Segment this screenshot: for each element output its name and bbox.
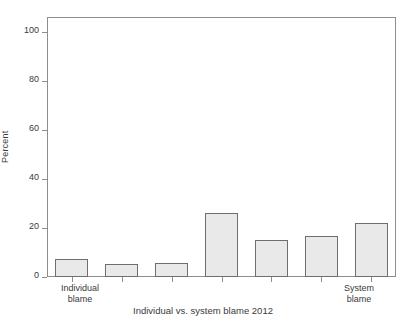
y-tick-40: 40 <box>0 179 47 180</box>
x-tick-label-system-blame: System blame <box>323 283 395 305</box>
y-tick-80: 80 <box>0 81 47 82</box>
bar <box>105 264 138 277</box>
x-tick-mark <box>222 277 223 282</box>
x-tick-mark <box>122 277 123 282</box>
y-tick-label-40: 40 <box>29 172 39 182</box>
y-tick-20: 20 <box>0 228 47 229</box>
bar <box>205 213 238 277</box>
x-tick-label-line1: Individual <box>44 283 116 294</box>
bar-chart-figure: Percent 100 80 60 40 20 0 Individual bla… <box>0 0 406 325</box>
x-tick-mark <box>271 277 272 282</box>
y-tick-label-20: 20 <box>29 221 39 231</box>
bar <box>355 223 388 277</box>
x-tick-mark <box>72 277 73 282</box>
x-tick-label-line2: blame <box>323 294 395 305</box>
x-tick-label-line2: blame <box>44 294 116 305</box>
x-tick-label-line1: System <box>323 283 395 294</box>
y-tick-100: 100 <box>0 32 47 33</box>
bar <box>305 236 338 277</box>
x-tick-mark <box>371 277 372 282</box>
y-tick-label-80: 80 <box>29 74 39 84</box>
bar <box>55 259 88 277</box>
y-tick-mark <box>42 277 47 278</box>
y-tick-0: 0 <box>0 277 47 278</box>
x-tick-label-individual-blame: Individual blame <box>44 283 116 305</box>
y-axis-title: Percent <box>0 112 14 182</box>
bar <box>255 240 288 277</box>
y-tick-60: 60 <box>0 130 47 131</box>
y-tick-label-60: 60 <box>29 123 39 133</box>
y-tick-label-0: 0 <box>34 270 39 280</box>
bar <box>155 263 188 277</box>
y-tick-label-100: 100 <box>24 25 39 35</box>
chart-title: Individual vs. system blame 2012 <box>0 305 406 316</box>
x-tick-mark <box>172 277 173 282</box>
x-tick-mark <box>321 277 322 282</box>
